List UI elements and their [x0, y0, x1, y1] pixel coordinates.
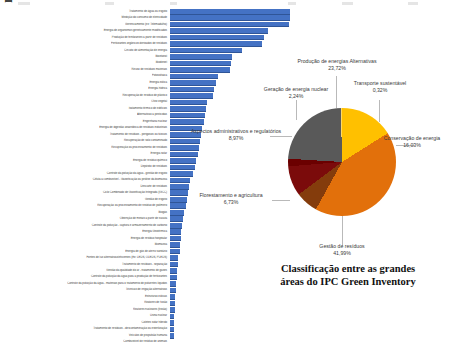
- bar-row-label: Técnicas de irrigação alternativas: [30, 288, 170, 292]
- bar-row-label: Ciclo Combinado de Gaseificação Integrad…: [30, 191, 170, 195]
- pie-chart-circle: [288, 108, 396, 216]
- bar-track: [170, 22, 290, 27]
- bar-row-label: Recuperação ou processamento de resíduo …: [30, 204, 170, 208]
- bar-row: Medição do consumo de eletricidade: [30, 14, 290, 20]
- bar: [170, 171, 193, 177]
- bar-row-label: Energia hídrica: [30, 87, 170, 91]
- bar-row: Tratamento de resíduos - descontaminação…: [30, 326, 290, 332]
- bar: [170, 210, 184, 216]
- bar: [170, 268, 177, 274]
- bar: [170, 255, 178, 261]
- bar: [170, 229, 181, 235]
- pie-label-energia-nuclear-value: 2,24%: [234, 93, 358, 100]
- bar-row-label: Recuperação ou processamento de resíduos: [30, 146, 170, 150]
- bar: [170, 184, 189, 190]
- bar-row-label: Célula a combustível - Gaseificação ou p…: [30, 178, 170, 182]
- bar-track: [170, 314, 290, 319]
- bar: [170, 178, 190, 184]
- pie-label-energias-alternativas: Produção de energias Alternativas 23,72%: [258, 58, 416, 71]
- bar: [170, 22, 289, 28]
- bar-row-label: Gestão da qualidade do ar - tratamento d…: [30, 269, 170, 273]
- bar: [170, 249, 180, 255]
- axis-title-line-1: IPCs de maior incidência na: [4, 0, 26, 22]
- bar-row: Energia de organismos geneticamente modi…: [30, 27, 290, 33]
- bar-row: Usina nuclear: [30, 313, 290, 319]
- bar-row-label: Estruturas eólicas: [30, 295, 170, 299]
- pie-label-gestao-residuos-value: 41,99%: [292, 250, 392, 257]
- bar-row-label: Energia eólica: [30, 81, 170, 85]
- bar-row: Coletes solar híbrido: [30, 319, 290, 325]
- bar-row-label: Depósito de resíduos: [30, 165, 170, 169]
- bar-track: [170, 327, 290, 332]
- pie-label-aspectos-administrativos-value: 8,97%: [180, 135, 292, 142]
- bar-row-label: Biomassa: [30, 243, 170, 247]
- bar: [170, 294, 175, 300]
- pie-label-energias-alternativas-name: Produção de energias Alternativas: [258, 58, 416, 65]
- bar-row-label: Tratamento de resíduos - perigosos ou tó…: [30, 133, 170, 137]
- bar-row-label: Recuperação de solo contaminado: [30, 139, 170, 143]
- leader-line-nuclear: [296, 100, 297, 120]
- bar: [170, 203, 186, 209]
- bar-track: [170, 333, 290, 338]
- bar-row-label: Controle da poluição da água para a prod…: [30, 275, 170, 279]
- bar-track: [170, 35, 290, 40]
- pie-label-florestamento-agricultura: Florestamento e agricultura 6,73%: [188, 192, 274, 205]
- pie-label-energia-nuclear-name: Geração de energia nuclear: [234, 86, 358, 93]
- bar: [170, 158, 196, 164]
- bar-row-label: Controle da poluição da água - materiais…: [30, 282, 170, 286]
- bar-row-label: Engenharia nuclear: [30, 120, 170, 124]
- bar-row-label: Controle da poluição - captura e armazen…: [30, 223, 170, 227]
- bar-row: Gerenciamento (ex: Telemadulho): [30, 21, 290, 27]
- bar-row: Veículos de propulsão humana: [30, 332, 290, 338]
- leader-line-florestamento: [272, 200, 290, 201]
- bar-row-label: Fontes de luz alternativas/eficientes (E…: [30, 256, 170, 260]
- pie-label-energia-nuclear: Geração de energia nuclear 2,24%: [234, 86, 358, 99]
- bar: [170, 223, 182, 229]
- bar-row-label: Gerenciamento (ex: Telemadulho): [30, 22, 170, 26]
- bar: [170, 301, 175, 307]
- bar-row-label: Tratamento de resíduos - separação: [30, 262, 170, 266]
- bar-row-label: Veículos de propulsão humana: [30, 334, 170, 338]
- bar-row-label: Isolamento térmico de edifícios: [30, 107, 170, 111]
- bar: [170, 190, 188, 196]
- bar-row-label: Energia de organismos geneticamente modi…: [30, 29, 170, 33]
- bar-track: [170, 9, 290, 14]
- bar-row-label: Reatores de fusão: [30, 301, 170, 305]
- bar-row-label: Energia de digestão anaeróbica de resídu…: [30, 126, 170, 130]
- pie-label-gestao-residuos-name: Gestão de resíduos: [292, 243, 392, 250]
- bar-row-label: Reuso de resíduos materiais: [30, 68, 170, 72]
- bar: [170, 236, 181, 242]
- bar-row-label: Energia de resíduo hospitalar: [30, 236, 170, 240]
- pie-label-florestamento-agricultura-value: 6,73%: [188, 199, 274, 206]
- bar-row-label: Energia de gás de aterro sanitário: [30, 249, 170, 253]
- bar-row-label: Produção de fertilizantes a partir de re…: [30, 35, 170, 39]
- pie-label-energias-alternativas-value: 23,72%: [258, 65, 416, 72]
- bar-row-label: Circuito de alimentação de energia: [30, 48, 170, 52]
- bar-row: Tratamento de água ou esgoto: [30, 8, 290, 14]
- bar: [170, 145, 199, 151]
- bar-row-label: Fotovoltaica: [30, 74, 170, 78]
- leader-line-transporte: [379, 100, 380, 122]
- pie-chart-title-line-2: áreas do IPC Green Inventory: [242, 275, 454, 288]
- bar-row-label: Usina nuclear: [30, 314, 170, 318]
- bar-track: [170, 320, 290, 325]
- bar-row-label: Obtenção de metais a partir de sucata: [30, 217, 170, 221]
- bar: [170, 216, 183, 222]
- bar-track: [170, 340, 290, 345]
- bar: [170, 275, 177, 281]
- pie-label-aspectos-administrativos: Aspectos administrativos e regulatórios …: [180, 128, 292, 141]
- pie-chart-title: Classificação entre as grandes áreas do …: [242, 262, 454, 288]
- bar: [170, 307, 175, 313]
- leader-line-residuos: [342, 216, 343, 246]
- bar-row-label: Coletes solar híbrido: [30, 321, 170, 325]
- bar: [170, 288, 176, 294]
- bar-row-label: Óleo vegetal: [30, 100, 170, 104]
- bar: [170, 314, 174, 320]
- bar-row-label: Energia solar: [30, 152, 170, 156]
- bar-row-label: Descarte de resíduos: [30, 184, 170, 188]
- bar-track: [170, 15, 290, 20]
- bar-track: [170, 28, 290, 33]
- pie-label-gestao-residuos: Gestão de resíduos 41,99%: [292, 243, 392, 256]
- bar-row-label: Combustível de resíduo de animais: [30, 340, 170, 344]
- bar: [170, 15, 290, 21]
